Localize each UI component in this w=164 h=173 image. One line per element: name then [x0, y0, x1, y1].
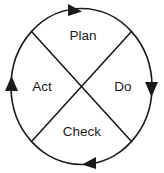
quadrant-label-act: Act	[32, 79, 52, 94]
arrow-bottom-icon	[82, 157, 96, 169]
quadrant-label-check: Check	[63, 124, 102, 139]
pdca-cycle-diagram: Plan Do Check Act	[0, 0, 164, 173]
quadrant-label-plan: Plan	[69, 28, 96, 43]
arrow-top-icon	[68, 4, 82, 16]
arrow-right-icon	[145, 82, 158, 97]
cycle-canvas: Plan Do Check Act	[0, 0, 164, 173]
quadrant-label-do: Do	[114, 79, 131, 94]
arrow-left-icon	[5, 76, 18, 91]
